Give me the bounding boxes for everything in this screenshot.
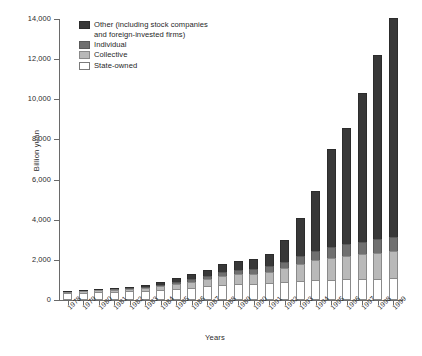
bar-segment [218, 272, 227, 276]
bar [265, 254, 274, 300]
y-axis-tick [54, 260, 59, 261]
stacked-bar-chart: Billion yuan 02,0004,0006,0008,00010,000… [0, 0, 422, 356]
bar-segment [342, 256, 351, 280]
bar-segment [327, 258, 336, 280]
bar [342, 128, 351, 300]
bar-segment [187, 282, 196, 288]
bar-segment [125, 287, 134, 288]
bar [234, 261, 243, 300]
bar-segment [63, 291, 72, 292]
bar-segment [296, 218, 305, 256]
y-axis-tick-label: 0 [0, 295, 51, 304]
bar [311, 191, 320, 300]
bar-segment [389, 251, 398, 278]
bar-segment [389, 18, 398, 237]
legend-item: Other (including stock companies [79, 20, 259, 29]
legend-item-label: Other (including stock companies [94, 20, 208, 29]
bar [249, 259, 258, 300]
bar-segment [296, 264, 305, 281]
legend-item: State-owned [79, 61, 259, 70]
light-gray-swatch-icon [79, 51, 90, 59]
y-axis-tick [54, 59, 59, 60]
bar-segment [203, 279, 212, 286]
bar [280, 240, 289, 300]
bar-segment [358, 242, 367, 254]
bar-segment [110, 288, 119, 289]
bar-segment [172, 282, 181, 284]
legend-item-label: Collective [94, 50, 127, 59]
y-axis-tick-label: 4,000 [0, 215, 51, 224]
bar-segment [311, 251, 320, 260]
bar-segment [187, 279, 196, 282]
dark-swatch-icon [79, 21, 90, 29]
bar-segment [110, 290, 119, 292]
bar-segment [373, 55, 382, 240]
bar [389, 18, 398, 300]
bar-segment [389, 237, 398, 251]
bar [296, 218, 305, 300]
bar-segment [203, 270, 212, 276]
bar-segment [342, 128, 351, 244]
bar-segment [265, 254, 274, 266]
bar-segment [156, 282, 165, 284]
bar-segment [156, 286, 165, 290]
legend-item-label: Individual [94, 40, 127, 49]
bar-segment [172, 278, 181, 281]
y-axis-tick-label: 6,000 [0, 175, 51, 184]
bar-segment [327, 247, 336, 258]
bar-segment [94, 290, 103, 292]
legend-item-label: State-owned [94, 61, 137, 70]
y-axis-tick-label: 12,000 [0, 54, 51, 63]
bar-segment [358, 93, 367, 242]
bar-segment [141, 285, 150, 287]
bar-segment [373, 239, 382, 252]
bar-segment [234, 261, 243, 269]
chart-legend: Other (including stock companiesand fore… [79, 20, 259, 71]
bar-segment [156, 285, 165, 287]
bar [327, 149, 336, 300]
bar-segment [79, 290, 88, 291]
legend-item: Collective [79, 50, 259, 59]
bar-segment [311, 260, 320, 280]
bar-segment [296, 256, 305, 264]
bar-segment [125, 289, 134, 291]
bar-segment [342, 244, 351, 256]
bar-segment [280, 268, 289, 282]
legend-item-label-continued: and foreign-invested firms) [94, 30, 259, 39]
bar [187, 274, 196, 300]
bar-segment [203, 276, 212, 279]
y-axis-tick-label: 10,000 [0, 94, 51, 103]
bar-segment [234, 270, 243, 275]
white-swatch-icon [79, 62, 90, 70]
bar-segment [265, 266, 274, 272]
x-axis-title: Years [183, 333, 247, 342]
y-axis-tick [54, 19, 59, 20]
bar-segment [373, 253, 382, 279]
legend-item: Individual [79, 40, 259, 49]
y-axis-tick [54, 99, 59, 100]
bar-segment [358, 254, 367, 279]
bar-segment [249, 274, 258, 284]
bar-segment [63, 293, 72, 300]
bar-segment [249, 259, 258, 268]
y-axis-tick-label: 8,000 [0, 134, 51, 143]
bar-segment [187, 274, 196, 278]
medium-gray-swatch-icon [79, 41, 90, 49]
y-axis-tick [54, 180, 59, 181]
y-axis-tick-label: 14,000 [0, 14, 51, 23]
bar-segment [327, 149, 336, 247]
bar [203, 270, 212, 300]
bar-segment [249, 269, 258, 274]
bar-segment [172, 284, 181, 289]
y-axis-tick [54, 220, 59, 221]
y-axis-tick [54, 139, 59, 140]
bar [218, 264, 227, 300]
bar [373, 55, 382, 300]
bar-segment [218, 264, 227, 272]
bar-segment [311, 191, 320, 251]
bar-segment [79, 291, 88, 292]
bar [63, 291, 72, 300]
bar-segment [63, 292, 72, 293]
bar-segment [234, 274, 243, 284]
bar-segment [280, 262, 289, 269]
